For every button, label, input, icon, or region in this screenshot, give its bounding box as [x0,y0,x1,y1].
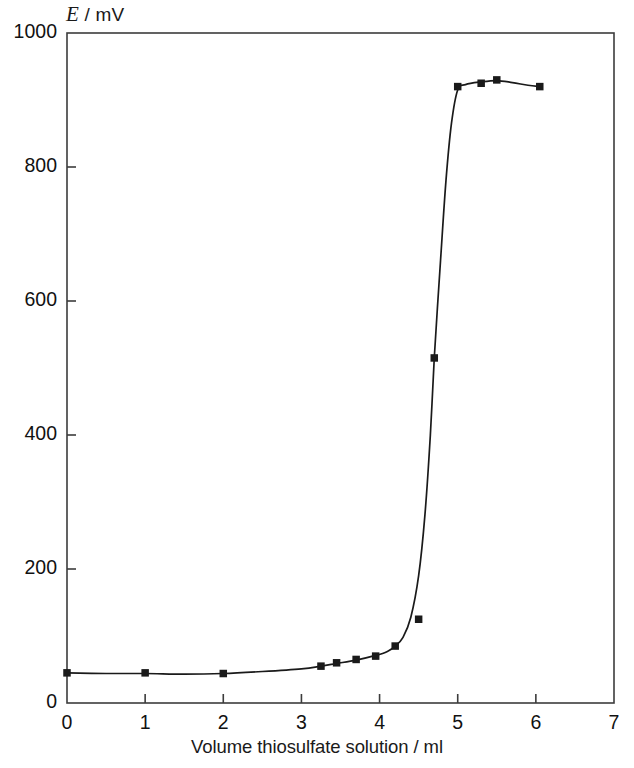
data-point-marker [333,659,341,667]
fitted-curve [67,81,540,675]
data-point-marker [454,83,462,91]
data-point-marker [220,670,228,678]
y-tick-label: 200 [24,556,57,579]
y-tick-label: 600 [24,288,57,311]
x-tick-label: 5 [438,711,478,734]
x-tick-label: 1 [125,711,165,734]
data-point-marker [63,669,71,677]
x-axis-label: Volume thiosulfate solution / ml [0,736,634,758]
titration-curve-figure: E / mV 02004006008001000 01234567 Volume… [0,0,634,768]
data-point-marker [536,83,544,91]
y-tick-label: 800 [24,154,57,177]
data-point-marker [317,662,325,670]
data-point-marker [352,656,360,664]
data-point-marker [493,76,501,84]
x-tick-label: 6 [516,711,556,734]
data-point-marker [431,354,439,362]
x-tick-label: 0 [47,711,87,734]
plot-area [0,0,634,768]
x-tick-label: 4 [360,711,400,734]
x-tick-label: 3 [281,711,321,734]
y-tick-label: 0 [46,690,57,713]
data-point-marker [141,669,149,677]
data-point-marker [477,80,485,88]
y-tick-label: 1000 [14,20,57,43]
axis-frame [67,33,614,703]
data-point-marker [391,642,399,650]
data-point-marker [415,616,423,624]
data-point-marker [372,652,380,660]
x-tick-label: 2 [203,711,243,734]
x-tick-label: 7 [594,711,634,734]
y-tick-label: 400 [24,422,57,445]
